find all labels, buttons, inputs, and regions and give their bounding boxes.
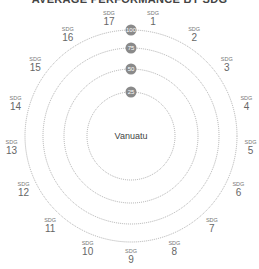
- sdg-number: 3: [224, 62, 230, 73]
- ring-badge-label-50: 50: [128, 66, 135, 72]
- sdg-number: 10: [82, 246, 94, 257]
- sdg-label-3: SDG3: [221, 56, 233, 73]
- sdg-label-8: SDG8: [168, 240, 180, 257]
- sdg-number: 14: [10, 101, 22, 112]
- sdg-label-10: SDG10: [82, 240, 94, 257]
- ring-badge-label-75: 75: [128, 45, 135, 51]
- sdg-label-2: SDG2: [188, 26, 200, 43]
- radial-chart: 255075100 SDG1SDG2SDG3SDG4SDG5SDG6SDG7SD…: [0, 0, 259, 269]
- sdg-label-12: SDG12: [18, 181, 30, 198]
- sdg-number: 13: [6, 145, 18, 156]
- sdg-number: 9: [128, 254, 134, 265]
- sdg-number: 7: [209, 223, 215, 234]
- sdg-label-13: SDG13: [6, 139, 18, 156]
- sdg-number: 6: [236, 187, 242, 198]
- sdg-number: 15: [30, 62, 42, 73]
- sdg-number: 11: [45, 223, 56, 234]
- sdg-label-9: SDG9: [125, 248, 137, 265]
- sdg-number: 16: [62, 32, 74, 43]
- sdg-number: 2: [191, 32, 197, 43]
- sdg-label-16: SDG16: [62, 26, 74, 43]
- sdg-label-4: SDG4: [240, 95, 252, 112]
- sdg-label-11: SDG11: [44, 217, 56, 234]
- sdg-number: 4: [244, 101, 250, 112]
- ring-badges-group: 255075100: [126, 25, 137, 98]
- sdg-label-7: SDG7: [206, 217, 218, 234]
- sdg-number: 8: [172, 246, 178, 257]
- sdg-label-5: SDG5: [245, 139, 257, 156]
- ring-badge-label-25: 25: [128, 89, 135, 95]
- ring-badge-label-100: 100: [126, 27, 137, 33]
- sdg-label-14: SDG14: [10, 95, 22, 112]
- sdg-number: 12: [18, 187, 30, 198]
- sdg-label-15: SDG15: [29, 56, 41, 73]
- sdg-label-6: SDG6: [232, 181, 244, 198]
- sdg-number: 5: [248, 145, 254, 156]
- sdg-number: 1: [150, 16, 156, 27]
- sdg-label-17: SDG17: [103, 10, 115, 27]
- center-label: Vanuatu: [115, 131, 148, 141]
- sdg-label-1: SDG1: [147, 10, 159, 27]
- sdg-number: 17: [103, 16, 115, 27]
